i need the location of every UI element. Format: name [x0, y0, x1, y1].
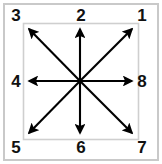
arrow-down-left — [29, 81, 80, 133]
direction-label-5: 5 — [8, 139, 24, 156]
direction-label-4: 4 — [8, 73, 24, 90]
direction-label-8: 8 — [134, 73, 150, 90]
direction-label-3: 3 — [8, 7, 24, 24]
direction-label-6: 6 — [73, 139, 89, 156]
direction-label-2: 2 — [73, 7, 89, 24]
arrow-up-right — [80, 29, 132, 81]
arrow-up-left — [29, 29, 80, 81]
direction-label-7: 7 — [134, 139, 150, 156]
direction-label-1: 1 — [134, 7, 150, 24]
direction-diagram-figure: 3 2 1 4 8 5 6 7 — [0, 0, 162, 164]
arrow-down-right — [80, 81, 132, 133]
